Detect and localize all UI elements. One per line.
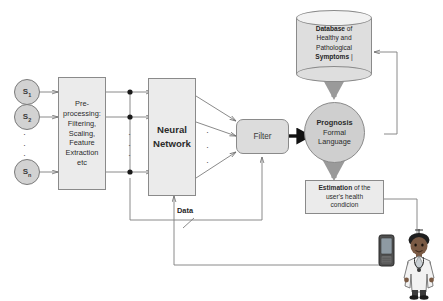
doctor-figure-icon [398, 226, 440, 300]
sensor-label: Sn [23, 167, 32, 178]
sensor-ellipsis: · · · [23, 134, 26, 155]
sensor-label: S2 [23, 112, 31, 123]
neural-network-label: Neural Network [153, 123, 191, 152]
prognosis-line3: Language [318, 137, 351, 147]
sensor-node-s2[interactable]: S2 [14, 104, 40, 130]
prognosis-node[interactable]: Prognosis Formal Language [304, 102, 365, 163]
preprocessing-node[interactable]: Pre- processing: Filtering, Scaling, Fea… [58, 77, 106, 190]
sensor-node-sn[interactable]: Sn [14, 159, 40, 185]
estimation-node[interactable]: Estimation of the user's health condicio… [305, 180, 384, 214]
filter-node[interactable]: Filter [236, 119, 289, 154]
database-node[interactable]: Database of Healthy and Pathological Sym… [296, 10, 372, 82]
bus-ellipsis: · · · [128, 134, 131, 155]
neural-network-node[interactable]: Neural Network [148, 78, 196, 196]
diagram-canvas: S1 S2 Sn · · · Pre- processing: Filterin… [0, 0, 443, 301]
sensor-label: S1 [23, 87, 31, 98]
database-label: Database of Healthy and Pathological Sym… [296, 24, 372, 61]
prognosis-line2: Formal [323, 128, 346, 138]
nn-output-ellipsis: · · · [206, 132, 209, 162]
data-edge-label: Data [177, 206, 193, 215]
estimation-label: Estimation of the user's health condicio… [318, 184, 370, 211]
mobile-phone-icon [378, 234, 396, 268]
database-bottom-ellipse [296, 66, 372, 82]
preprocessing-label: Pre- processing: Filtering, Scaling, Fea… [63, 99, 101, 167]
prognosis-line1: Prognosis [316, 118, 352, 128]
sensor-node-s1[interactable]: S1 [14, 79, 40, 105]
filter-label: Filter [253, 132, 271, 141]
